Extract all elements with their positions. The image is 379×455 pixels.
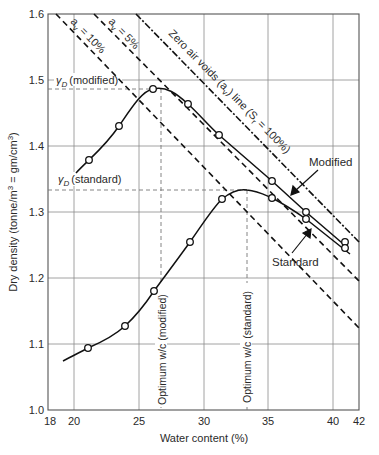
data-point xyxy=(216,132,223,139)
y-tick-label: 1.2 xyxy=(29,272,44,284)
x-tick-label: 25 xyxy=(133,415,145,427)
air-voids-5-label: av = 5% xyxy=(104,15,142,53)
data-point xyxy=(151,288,158,295)
optimum-modified-label: Optimum w/c (modified) xyxy=(156,294,168,405)
data-point xyxy=(187,239,194,246)
y-axis-ticks: 1.0 1.1 1.2 1.3 1.4 1.5 1.6 xyxy=(29,8,44,416)
x-axis-title: Water content (%) xyxy=(160,432,248,444)
data-point xyxy=(219,196,226,203)
data-point xyxy=(116,123,123,130)
x-tick-label: 42 xyxy=(353,415,365,427)
data-point xyxy=(122,323,129,330)
data-point xyxy=(269,195,276,202)
modified-label: Modified xyxy=(309,156,352,168)
data-point xyxy=(269,178,276,185)
modified-arrow xyxy=(291,170,318,195)
air-voids-5-line xyxy=(94,14,359,281)
y-tick-label: 1.0 xyxy=(29,404,44,416)
x-tick-label: 18 xyxy=(44,415,56,427)
y-tick-label: 1.6 xyxy=(29,8,44,20)
data-point xyxy=(303,216,310,223)
zero-air-voids-label: Zero air voids (av) line (Sr = 100%) xyxy=(164,27,293,158)
x-tick-label: 35 xyxy=(262,415,274,427)
data-point xyxy=(303,209,310,216)
data-point xyxy=(185,101,192,108)
modified-curve xyxy=(76,88,348,248)
standard-arrow xyxy=(292,229,311,253)
y-axis-title: Dry density (tonne/m3 = gm/cm3) xyxy=(6,132,19,292)
y-tick-label: 1.1 xyxy=(29,338,44,350)
standard-markers xyxy=(85,195,349,352)
zero-air-voids-line xyxy=(136,14,359,242)
y-tick-label: 1.4 xyxy=(29,140,44,152)
data-point xyxy=(85,345,92,352)
y-tick-label: 1.5 xyxy=(29,74,44,86)
standard-label: Standard xyxy=(272,256,319,268)
y-tick-label: 1.3 xyxy=(29,206,44,218)
x-tick-label: 20 xyxy=(68,415,80,427)
data-point xyxy=(342,245,349,252)
data-point xyxy=(86,157,93,164)
data-point xyxy=(150,86,157,93)
optimum-standard-label: Optimum w/c (standard) xyxy=(241,291,253,403)
x-tick-label: 30 xyxy=(198,415,210,427)
compaction-chart: 1.0 1.1 1.2 1.3 1.4 1.5 1.6 18 20 25 30 … xyxy=(0,0,379,455)
x-axis-ticks: 18 20 25 30 35 40 42 xyxy=(44,415,365,427)
x-tick-label: 40 xyxy=(327,415,339,427)
